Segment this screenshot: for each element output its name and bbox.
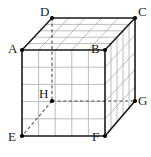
cube-drawing-canvas: [0, 0, 151, 157]
vertex-dot-B: [103, 48, 107, 52]
vertex-label-B: B: [91, 42, 100, 55]
vertex-label-E: E: [8, 130, 16, 143]
vertex-dot-G: [133, 99, 137, 103]
vertex-label-H: H: [39, 87, 48, 100]
vertex-label-F: F: [92, 130, 99, 143]
vertex-label-G: G: [138, 94, 147, 107]
vertex-dot-A: [20, 48, 24, 52]
vertex-dot-E: [20, 134, 24, 138]
cube-figure: A B C D E F G H: [0, 0, 151, 157]
vertex-label-C: C: [138, 5, 147, 18]
vertex-dot-C: [133, 16, 137, 20]
vertex-dot-D: [50, 16, 54, 20]
vertex-dot-H: [50, 99, 54, 103]
vertex-label-D: D: [40, 5, 49, 18]
vertex-label-A: A: [8, 42, 17, 55]
vertex-dot-F: [103, 134, 107, 138]
face-front: [22, 50, 105, 136]
